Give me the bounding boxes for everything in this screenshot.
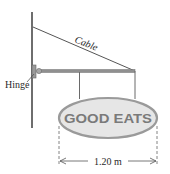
dimension-label: 1.20 m	[94, 156, 122, 167]
hangers	[80, 71, 136, 99]
rod	[38, 70, 135, 73]
good-eats-sign: GOOD EATS	[59, 98, 157, 138]
sign-on-hinged-rod-diagram: Cable Hinge GOOD EATS	[0, 0, 170, 174]
sign-text: GOOD EATS	[64, 111, 152, 126]
hinge-label: Hinge	[5, 79, 30, 90]
hinge-icon	[32, 65, 42, 78]
cable	[33, 27, 135, 71]
